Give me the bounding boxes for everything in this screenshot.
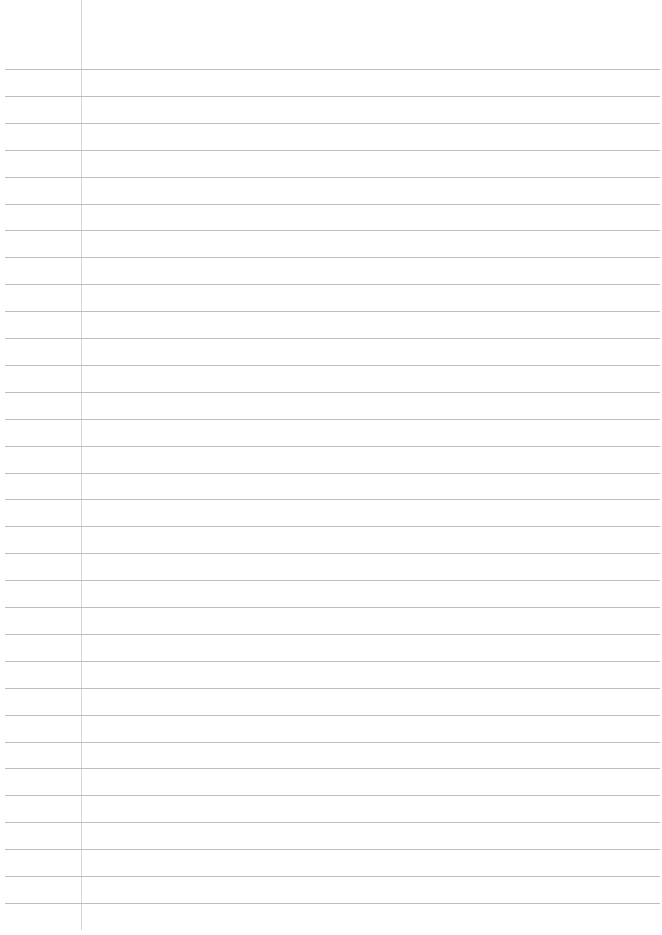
ruled-line [5,311,660,312]
ruled-line [5,123,660,124]
margin-line [81,0,82,930]
ruled-line [5,284,660,285]
ruled-line [5,876,660,877]
ruled-line [5,526,660,527]
ruled-line [5,177,660,178]
ruled-line [5,338,660,339]
ruled-line [5,365,660,366]
ruled-line [5,634,660,635]
ruled-line [5,69,660,70]
ruled-line [5,204,660,205]
ruled-line [5,688,660,689]
ruled-line [5,392,660,393]
ruled-line [5,795,660,796]
ruled-line [5,257,660,258]
ruled-line [5,446,660,447]
ruled-line [5,473,660,474]
ruled-line [5,742,660,743]
ruled-line [5,903,660,904]
ruled-line [5,553,660,554]
ruled-line [5,661,660,662]
ruled-line [5,150,660,151]
ruled-line [5,822,660,823]
ruled-line [5,96,660,97]
ruled-line [5,580,660,581]
lined-paper-page [0,0,662,935]
ruled-line [5,849,660,850]
ruled-line [5,607,660,608]
ruled-line [5,230,660,231]
ruled-line [5,768,660,769]
ruled-line [5,499,660,500]
ruled-line [5,419,660,420]
ruled-line [5,715,660,716]
